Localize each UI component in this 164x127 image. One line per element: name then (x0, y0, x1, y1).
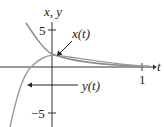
t-axis-label: t (157, 60, 161, 73)
tick-label-5: 5 (39, 24, 46, 37)
y-arrow-head-icon (27, 83, 32, 88)
x-annotation-arrow (59, 41, 72, 54)
y-axis-label: x, y (44, 5, 62, 18)
tick-label-1: 1 (139, 73, 146, 86)
curve-x-label: x(t) (72, 27, 90, 40)
chart: x, y t 5 −5 1 x(t) y(t) (0, 0, 164, 127)
tick-label-m5: −5 (31, 107, 45, 120)
curve-y-label: y(t) (82, 79, 100, 92)
plot-area (0, 0, 164, 127)
